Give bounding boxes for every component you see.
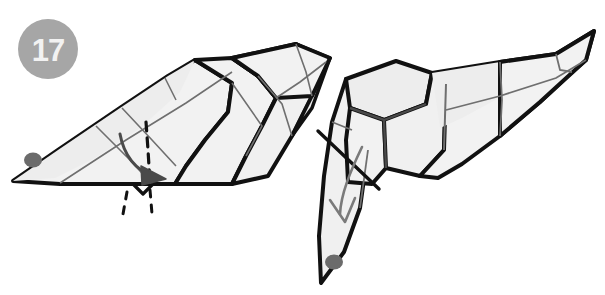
diagram-canvas: 17 xyxy=(0,0,605,295)
step-badge: 17 xyxy=(18,19,78,79)
step-badge-label: 17 xyxy=(32,33,64,68)
left-figure-eye-dot xyxy=(24,153,42,168)
origami-step-diagram: 17 xyxy=(0,0,605,295)
right-figure-eye-dot xyxy=(325,255,343,270)
